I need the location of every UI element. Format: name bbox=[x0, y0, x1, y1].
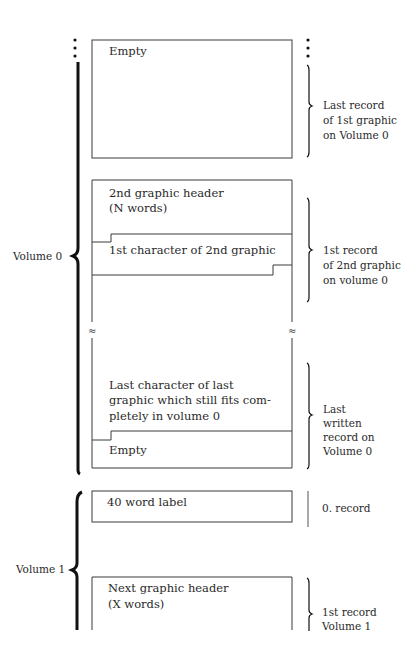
box-text-first-char-second-graphic: 1st character of 2nd graphic bbox=[109, 243, 276, 258]
volume1-label: Volume 1 bbox=[16, 562, 65, 577]
annotation-brace-5 bbox=[307, 578, 312, 631]
annotation-2-line3: on volume 0 bbox=[323, 273, 388, 288]
annotation-3-line4: Volume 0 bbox=[323, 444, 372, 459]
annotation-5-line2: Volume 1 bbox=[322, 619, 371, 634]
annotation-brace-1 bbox=[307, 65, 312, 157]
box-text-second-header-line2: (N words) bbox=[109, 201, 167, 216]
annotation-1-line3: on Volume 0 bbox=[323, 128, 389, 143]
box-text-empty-bottom: Empty bbox=[109, 443, 147, 458]
volume1-brace bbox=[72, 492, 82, 630]
annotation-1-line1: Last record bbox=[323, 98, 384, 113]
annotation-1-line2: of 1st graphic bbox=[323, 113, 397, 128]
continuation-dots-left bbox=[73, 38, 76, 57]
annotation-2-line2: of 2nd graphic bbox=[323, 258, 401, 273]
box-text-last-char-line2: graphic which still fits com- bbox=[109, 393, 271, 408]
continuation-dots-right bbox=[306, 38, 309, 57]
annotation-3-line3: record on bbox=[323, 430, 375, 445]
volume0-label: Volume 0 bbox=[13, 249, 62, 264]
annotation-3-line1: Last bbox=[323, 402, 346, 417]
annotation-2-line1: 1st record bbox=[323, 243, 378, 258]
annotation-brace-2 bbox=[307, 198, 312, 302]
box-text-empty-top: Empty bbox=[109, 44, 147, 59]
annotation-4-line1: 0. record bbox=[322, 501, 371, 516]
box-text-40-word-label: 40 word label bbox=[107, 495, 187, 510]
annotation-brace-3 bbox=[307, 363, 312, 469]
break-symbol-left: ≈ bbox=[88, 325, 96, 336]
annotation-3-line2: written bbox=[323, 416, 362, 431]
volume0-brace bbox=[73, 62, 80, 474]
box-text-second-header-line1: 2nd graphic header bbox=[109, 186, 224, 201]
box-text-next-header-line1: Next graphic header bbox=[108, 581, 229, 596]
box-text-last-char-line1: Last character of last bbox=[109, 378, 234, 393]
box-text-last-char-line3: pletely in volume 0 bbox=[109, 409, 220, 424]
box-text-next-header-line2: (X words) bbox=[108, 597, 164, 612]
annotation-5-line1: 1st record bbox=[322, 605, 377, 620]
break-symbol-right: ≈ bbox=[288, 325, 296, 336]
